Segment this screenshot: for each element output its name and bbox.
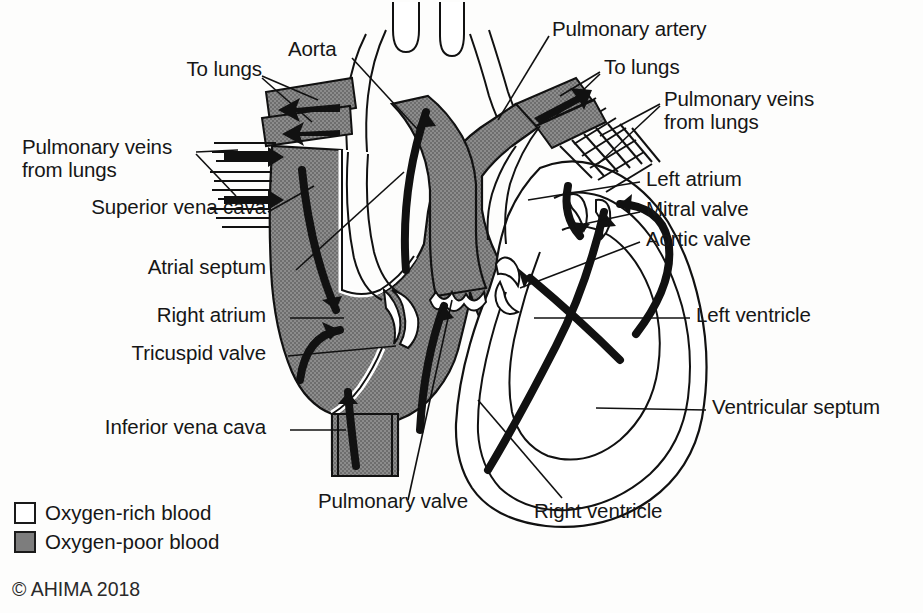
label-right-ventricle: Right ventricle (534, 500, 662, 523)
inferior-vena-cava-tube (332, 414, 398, 476)
legend-row-oxygen-poor: Oxygen-poor blood (14, 527, 314, 556)
label-ventricular-septum: Ventricular septum (712, 396, 880, 419)
label-left-ventricle: Left ventricle (696, 304, 811, 327)
label-inferior-vena-cava: Inferior vena cava (40, 416, 266, 439)
pulmonary-veins-right-line1: Pulmonary veins (664, 87, 814, 110)
label-to-lungs-left: To lungs (140, 58, 262, 81)
pulmonary-veins-left-line1: Pulmonary veins (22, 135, 172, 158)
legend: Oxygen-rich blood Oxygen-poor blood (14, 498, 314, 556)
label-superior-vena-cava: Superior vena cava (30, 196, 266, 219)
legend-label-oxygen-poor: Oxygen-poor blood (45, 530, 219, 554)
pulmonary-veins-left-line2: from lungs (22, 158, 117, 181)
label-aortic-valve: Aortic valve (646, 228, 751, 251)
label-atrial-septum: Atrial septum (60, 256, 266, 279)
label-tricuspid-valve: Tricuspid valve (46, 342, 266, 365)
copyright-notice: © AHIMA 2018 (12, 578, 140, 601)
label-pulmonary-artery: Pulmonary artery (552, 18, 706, 41)
label-aorta: Aorta (288, 38, 337, 61)
label-pulmonary-valve: Pulmonary valve (318, 490, 468, 513)
label-left-atrium: Left atrium (646, 168, 742, 191)
label-pulmonary-veins-from-lungs-left: Pulmonary veins from lungs (22, 136, 202, 182)
label-to-lungs-right: To lungs (604, 56, 680, 79)
heart-diagram-page: To lungs Aorta Pulmonary artery To lungs… (0, 0, 923, 613)
oxygen-rich-swatch-icon (14, 502, 36, 524)
label-mitral-valve: Mitral valve (646, 198, 748, 221)
label-right-atrium: Right atrium (66, 304, 266, 327)
pulmonary-veins-right-line2: from lungs (664, 110, 759, 133)
legend-row-oxygen-rich: Oxygen-rich blood (14, 498, 314, 527)
oxygen-poor-swatch-icon (14, 531, 36, 553)
label-pulmonary-veins-from-lungs-right: Pulmonary veins from lungs (664, 88, 914, 134)
legend-label-oxygen-rich: Oxygen-rich blood (45, 501, 211, 525)
